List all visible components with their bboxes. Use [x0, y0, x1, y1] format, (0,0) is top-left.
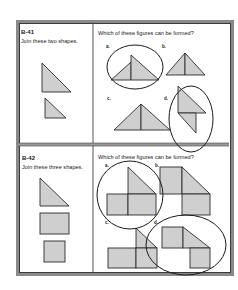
b41-option-d-label: d.: [164, 97, 168, 102]
b41-id: B-41: [21, 29, 34, 35]
b42-option-b-label: b.: [155, 164, 159, 169]
b41-option-d-figure[interactable]: [178, 86, 206, 133]
b42-option-c-label: c.: [105, 221, 109, 226]
b42-given-triangle: [40, 178, 69, 206]
b41-question: Which of these figures can be formed?: [98, 31, 194, 37]
b42-option-b-figure[interactable]: [160, 167, 210, 215]
b41-option-b-figure[interactable]: [166, 53, 205, 75]
b42-given-square: [44, 241, 65, 262]
b41-option-c-figure[interactable]: [114, 104, 170, 130]
b42-option-a-label: a.: [105, 164, 109, 169]
b41-option-c-label: c.: [107, 97, 111, 102]
b42-option-d-figure[interactable]: [162, 227, 210, 268]
b42-instruction: Join these three shapes.: [22, 165, 83, 171]
b42-option-a-figure[interactable]: [107, 167, 156, 215]
b42-given-rectangle: [40, 213, 69, 234]
b41-instruction: Join these two shapes.: [21, 39, 78, 45]
b41-option-a-label: a.: [106, 45, 110, 50]
b42-question: Which of these figures can be formed?: [98, 155, 194, 161]
b41-given-large-triangle: [42, 63, 71, 92]
b42-option-d-label: d.: [154, 221, 158, 226]
b41-given-small-triangle: [45, 98, 66, 118]
b42-option-c-figure[interactable]: [108, 228, 157, 268]
b41-option-a-figure[interactable]: [111, 55, 159, 80]
row-divider: [18, 143, 229, 146]
b42-id: B-42: [22, 155, 35, 161]
b41-option-b-label: b.: [162, 45, 166, 50]
